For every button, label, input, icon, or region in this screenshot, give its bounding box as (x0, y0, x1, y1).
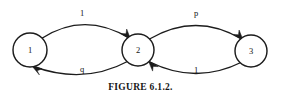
node-1-label: 1 (28, 45, 32, 55)
edge-2-to-3 (150, 26, 242, 40)
arrowhead-3-to-2 (148, 61, 158, 72)
edge-label-2-to-1: q (80, 64, 85, 74)
edge-label-1-to-2: 1 (80, 8, 84, 18)
edge-label-2-to-3: p (194, 8, 198, 18)
edge-label-3-to-2: 1 (194, 65, 198, 75)
figure-container: 1 2 3 1 q p 1 FIGURE 6.1.2. (0, 0, 281, 99)
edge-1-to-2 (42, 25, 130, 39)
node-2-label: 2 (136, 45, 140, 55)
figure-caption: FIGURE 6.1.2. (0, 82, 281, 92)
node-3-label: 3 (249, 46, 253, 56)
